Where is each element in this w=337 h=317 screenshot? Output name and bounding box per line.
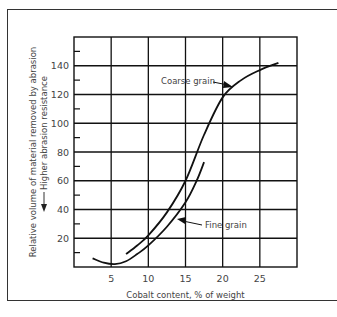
- y-tick-label: 80: [57, 147, 69, 158]
- y-tick-label: 60: [57, 175, 69, 186]
- x-tick-label: 15: [179, 273, 191, 284]
- down-arrow-icon: [41, 204, 47, 212]
- y-tick-label: 40: [57, 204, 69, 215]
- y-tick-label: 100: [51, 118, 69, 129]
- x-axis-title: Cobalt content, % of weight: [126, 290, 245, 300]
- y-tick-label: 20: [57, 233, 69, 244]
- x-tick-label: 10: [142, 273, 154, 284]
- y-tick-label: 140: [51, 60, 69, 71]
- coarse-grain-arrow-icon: [223, 81, 233, 88]
- coarse-grain-label: Coarse grain: [161, 76, 215, 86]
- x-tick-label: 20: [217, 273, 229, 284]
- x-tick-label: 5: [108, 273, 114, 284]
- fine-grain-arrow-icon: [177, 217, 186, 224]
- y-axis-title: Relative volume of material removed by a…: [28, 47, 38, 257]
- x-tick-label: 25: [254, 273, 266, 284]
- y-axis-subtitle: Higher abrasion resistance: [39, 76, 49, 190]
- fine-grain-label: Fine grain: [205, 220, 247, 230]
- y-tick-label: 120: [51, 89, 69, 100]
